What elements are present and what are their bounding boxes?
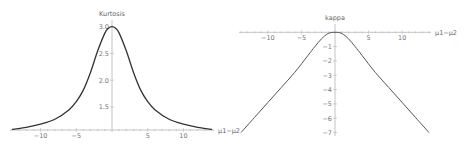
y-tick-label: −2	[322, 57, 332, 65]
charts-canvas: −10−55101.52.02.53.0Kurtosisμ1−μ2−10−551…	[0, 0, 466, 149]
x-tick-label: 10	[179, 132, 187, 140]
y-tick-label: −1	[322, 43, 332, 51]
kurtosis-x-label: μ1−μ2	[218, 127, 240, 135]
x-tick-label: 5	[146, 132, 150, 140]
y-tick-label: 2.0	[99, 77, 109, 85]
y-tick-label: −7	[322, 129, 332, 137]
x-tick-label: −10	[261, 34, 275, 42]
y-tick-label: 2.5	[99, 50, 109, 58]
y-tick-label: −5	[322, 100, 332, 108]
x-tick-label: −10	[34, 132, 48, 140]
y-tick-label: −6	[322, 115, 332, 123]
kurtosis-title: Kurtosis	[99, 10, 125, 18]
y-tick-label: −3	[322, 72, 332, 80]
x-tick-label: 10	[398, 34, 406, 42]
y-tick-label: 1.5	[99, 103, 109, 111]
x-tick-label: 5	[367, 34, 371, 42]
x-tick-label: −5	[71, 132, 81, 140]
x-tick-label: −5	[297, 34, 307, 42]
y-tick-label: −4	[322, 86, 332, 94]
kappa-x-label: μ1−μ2	[435, 29, 457, 37]
kappa-title: kappa	[325, 14, 345, 22]
